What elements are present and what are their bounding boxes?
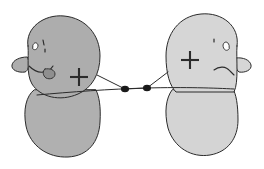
left-eye-outer-icon <box>33 43 38 50</box>
right-head <box>166 14 237 92</box>
right-eye-outer-icon <box>223 42 229 50</box>
illustration-canvas: Two stylized figures facing each other j… <box>0 0 264 169</box>
left-head <box>28 16 100 98</box>
scene-svg <box>0 0 264 169</box>
left-mouth-blob <box>43 69 55 79</box>
connector-node-right[interactable] <box>144 85 151 90</box>
connector-node-left[interactable] <box>122 86 129 91</box>
